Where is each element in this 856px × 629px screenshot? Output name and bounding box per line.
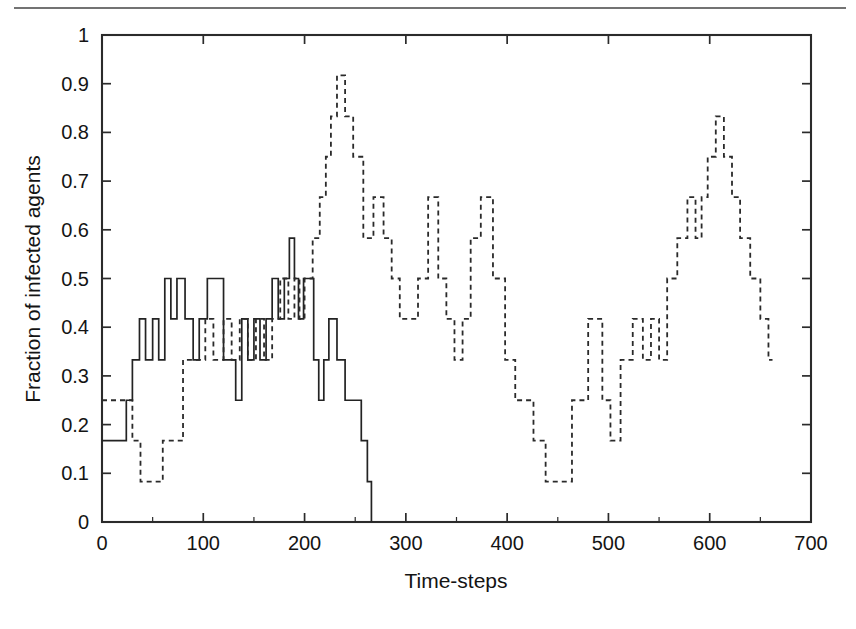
y-axis-tick-labels: 00.10.20.30.40.50.60.70.80.91: [61, 24, 89, 533]
y-tick-label: 0.6: [61, 219, 89, 241]
x-tick-label: 700: [794, 532, 827, 554]
x-tick-label: 0: [96, 532, 107, 554]
y-tick-label: 0.5: [61, 268, 89, 290]
series-dashed-run: [102, 75, 773, 481]
y-tick-label: 0.3: [61, 365, 89, 387]
y-tick-label: 0.8: [61, 121, 89, 143]
y-tick-label: 0.2: [61, 414, 89, 436]
y-tick-label: 1: [78, 24, 89, 46]
y-tick-label: 0: [78, 511, 89, 533]
x-axis-label: Time-steps: [404, 569, 507, 592]
x-tick-label: 600: [693, 532, 726, 554]
x-tick-label: 500: [592, 532, 625, 554]
x-tick-label: 400: [490, 532, 523, 554]
figure-container: 00.10.20.30.40.50.60.70.80.91 0100200300…: [0, 0, 856, 629]
data-series-group: [102, 75, 773, 522]
x-axis-tick-labels: 0100200300400500600700: [96, 532, 827, 554]
y-tick-label: 0.9: [61, 73, 89, 95]
line-chart: 00.10.20.30.40.50.60.70.80.91 0100200300…: [0, 0, 856, 629]
y-tick-label: 0.1: [61, 462, 89, 484]
series-solid-run: [102, 238, 371, 522]
x-tick-label: 200: [288, 532, 321, 554]
y-tick-label: 0.7: [61, 170, 89, 192]
x-tick-label: 300: [389, 532, 422, 554]
y-axis-label: Fraction of infected agents: [21, 155, 44, 402]
y-tick-label: 0.4: [61, 316, 89, 338]
x-tick-label: 100: [187, 532, 220, 554]
